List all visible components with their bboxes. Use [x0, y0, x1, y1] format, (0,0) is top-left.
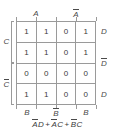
- variable-c-bar: C: [4, 79, 10, 89]
- formula-term-1: AC: [51, 119, 63, 129]
- bottom-tick-4: [96, 105, 97, 109]
- kmap-cell-r0-c1[interactable]: 1: [37, 22, 57, 43]
- bottom-label-b-right-text: B: [83, 108, 88, 117]
- top-tick-4: [96, 17, 97, 21]
- kmap-cell-r3-c2[interactable]: 0: [57, 84, 77, 105]
- left-label-c-text: C: [4, 37, 10, 46]
- variable-a-bar: A: [51, 119, 57, 129]
- left-label-c: C: [2, 37, 11, 46]
- variable-d: D: [101, 27, 107, 36]
- kmap-cell-r2-c3[interactable]: 0: [76, 64, 96, 85]
- kmap-cell-r2-c0[interactable]: 0: [17, 64, 37, 85]
- right-label-d-bar-text: D: [101, 59, 107, 68]
- left-bracket-c: [11, 21, 14, 63]
- variable-b: B: [83, 108, 88, 117]
- left-label-c-bar-text: C: [4, 80, 10, 89]
- boolean-expression: AD+AC+BC: [0, 119, 115, 129]
- right-label-d-bottom-text: D: [101, 90, 107, 99]
- formula-operator: +: [64, 120, 71, 129]
- formula-term-0: AD: [32, 119, 44, 129]
- variable-c: C: [4, 37, 10, 46]
- variable-b-bar: B: [53, 108, 58, 118]
- kmap-cell-r2-c2[interactable]: 0: [57, 64, 77, 85]
- left-bracket-c-bar: [11, 63, 14, 105]
- bottom-tick-0: [16, 105, 17, 109]
- karnaugh-map-figure: A A C C 1101110100001100 D D D B B B A: [0, 0, 115, 135]
- bottom-label-b-bar-text: B: [53, 109, 58, 118]
- kmap-cell-r3-c3[interactable]: 0: [76, 84, 96, 105]
- kmap-grid: 1101110100001100: [16, 21, 96, 105]
- formula-term-2: BC: [71, 119, 83, 129]
- kmap-cell-r3-c0[interactable]: 1: [17, 84, 37, 105]
- kmap-cell-r1-c1[interactable]: 1: [37, 43, 57, 64]
- variable-d: D: [101, 90, 107, 99]
- variable-d-bar: D: [101, 58, 107, 68]
- variable-c: C: [77, 120, 83, 129]
- kmap-cell-r2-c1[interactable]: 0: [37, 64, 57, 85]
- kmap-cell-r1-c0[interactable]: 1: [17, 43, 37, 64]
- bottom-tick-1: [36, 105, 37, 109]
- variable-b: B: [24, 108, 29, 117]
- bottom-label-b-right: B: [80, 108, 92, 117]
- right-label-d-bottom: D: [99, 90, 109, 99]
- right-label-d-top: D: [99, 27, 109, 36]
- kmap-cell-r0-c0[interactable]: 1: [17, 22, 37, 43]
- left-label-c-bar: C: [2, 79, 11, 89]
- right-label-d-top-text: D: [101, 27, 107, 36]
- variable-b-bar: B: [71, 119, 77, 129]
- bottom-label-b-left-text: B: [24, 108, 29, 117]
- bottom-label-b-left: B: [21, 108, 33, 117]
- kmap-cell-r0-c3[interactable]: 1: [76, 22, 96, 43]
- kmap-cell-r0-c2[interactable]: 0: [57, 22, 77, 43]
- bottom-tick-3: [76, 105, 77, 109]
- variable-a-bar: A: [32, 119, 38, 129]
- bottom-label-b-bar: B: [50, 108, 62, 118]
- kmap-cell-r1-c3[interactable]: 1: [76, 43, 96, 64]
- kmap-cell-r3-c1[interactable]: 1: [37, 84, 57, 105]
- right-label-d-bar: D: [99, 58, 109, 68]
- kmap-cell-r1-c2[interactable]: 0: [57, 43, 77, 64]
